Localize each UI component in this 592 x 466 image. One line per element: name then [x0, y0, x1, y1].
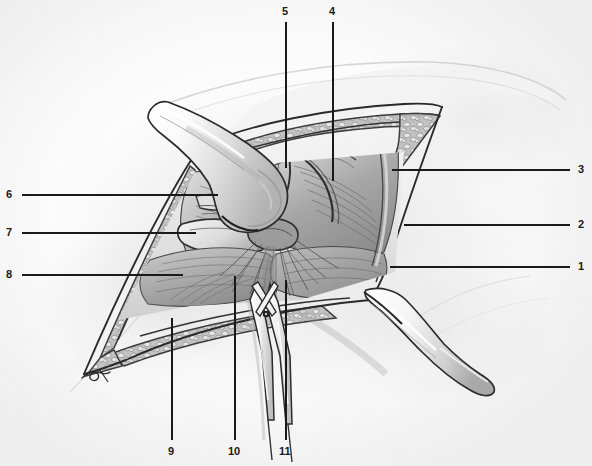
label-number-3: 3 — [578, 164, 584, 175]
label-number-9: 9 — [168, 446, 174, 457]
label-number-11: 11 — [279, 446, 291, 457]
illustration-figure: 1234567891011 — [0, 0, 592, 466]
label-number-1: 1 — [578, 261, 584, 272]
surgical-illustration-canvas — [0, 0, 592, 466]
label-number-7: 7 — [6, 227, 12, 238]
label-number-6: 6 — [6, 189, 12, 200]
label-number-2: 2 — [578, 219, 584, 230]
label-number-10: 10 — [228, 446, 240, 457]
label-number-5: 5 — [282, 6, 288, 17]
label-number-8: 8 — [6, 269, 12, 280]
label-number-4: 4 — [329, 6, 335, 17]
